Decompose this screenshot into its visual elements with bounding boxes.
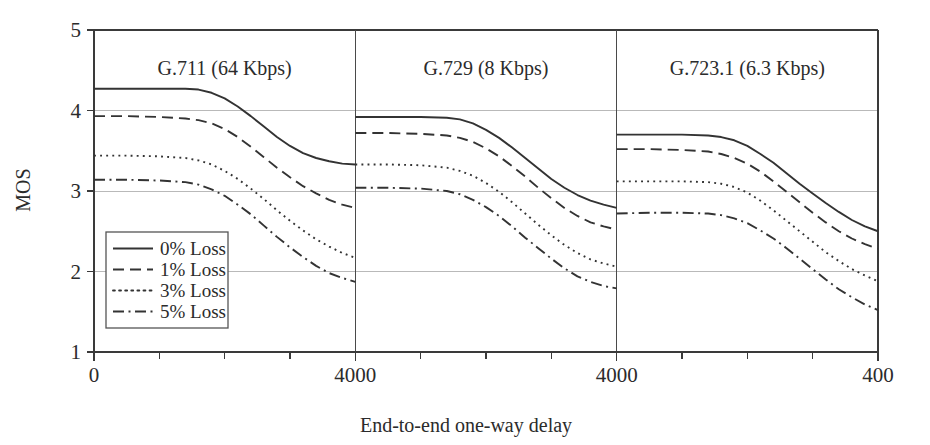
legend-label-3: 5% Loss bbox=[160, 301, 226, 322]
x-tick-label-3: 400 bbox=[862, 363, 894, 387]
y-tick-label-4: 4 bbox=[71, 99, 82, 123]
chart-legend: 0% Loss1% Loss3% Loss5% Loss bbox=[106, 232, 228, 328]
x-axis-title: End-to-end one-way delay bbox=[360, 414, 572, 437]
chart-container: 54321 040004000400 G.711 (64 Kbps)G.729 … bbox=[0, 0, 930, 445]
x-tick-label-2: 4000 bbox=[596, 363, 638, 387]
panel-title-2: G.729 (8 Kbps) bbox=[424, 57, 549, 80]
y-tick-label-1: 1 bbox=[71, 340, 82, 364]
panel-title-3: G.723.1 (6.3 Kbps) bbox=[670, 57, 825, 80]
legend-label-1: 1% Loss bbox=[160, 259, 226, 280]
y-tick-label-2: 2 bbox=[71, 260, 82, 284]
y-tick-label-3: 3 bbox=[71, 179, 82, 203]
legend-label-2: 3% Loss bbox=[160, 280, 226, 301]
y-axis-title: MOS bbox=[12, 168, 34, 211]
y-tick-label-5: 5 bbox=[71, 18, 82, 42]
legend-label-0: 0% Loss bbox=[160, 238, 226, 259]
mos-vs-delay-line-chart: 54321 040004000400 G.711 (64 Kbps)G.729 … bbox=[0, 0, 930, 445]
x-tick-label-1: 4000 bbox=[334, 363, 376, 387]
panel-titles-group: G.711 (64 Kbps)G.729 (8 Kbps)G.723.1 (6.… bbox=[158, 57, 825, 80]
x-tick-label-0: 0 bbox=[89, 363, 100, 387]
panel-title-1: G.711 (64 Kbps) bbox=[158, 57, 292, 80]
